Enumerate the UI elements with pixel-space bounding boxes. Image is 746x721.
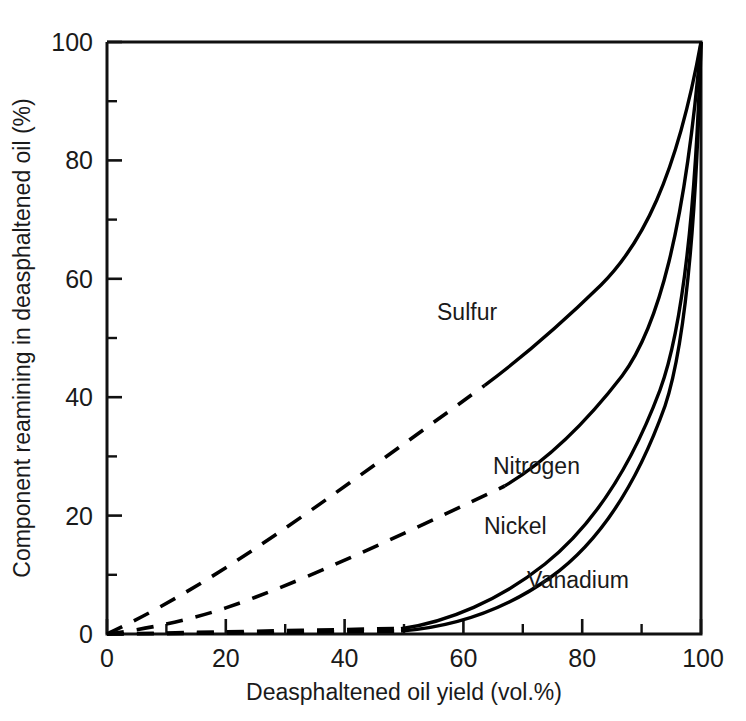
y-axis-title: Component reamining in deasphaltened oil… bbox=[9, 98, 35, 577]
nitrogen-curve-dashed bbox=[107, 486, 505, 634]
x-axis-tick-labels: 0 20 40 60 80 100 bbox=[100, 644, 724, 672]
series-vanadium bbox=[107, 42, 701, 634]
x-tick-label-100: 100 bbox=[682, 644, 724, 672]
x-tick-label-80: 80 bbox=[568, 644, 596, 672]
nickel-curve-solid bbox=[401, 42, 701, 629]
y-tick-label-80: 80 bbox=[65, 146, 93, 174]
x-axis-title: Deasphaltened oil yield (vol.%) bbox=[246, 679, 562, 705]
x-tick-label-0: 0 bbox=[100, 644, 114, 672]
series-sulfur bbox=[107, 42, 701, 634]
y-tick-label-20: 20 bbox=[65, 502, 93, 530]
y-tick-label-100: 100 bbox=[51, 28, 93, 56]
series-label-vanadium: Vanadium bbox=[527, 567, 629, 593]
series-label-nitrogen: Nitrogen bbox=[493, 453, 580, 479]
sulfur-curve-dashed bbox=[107, 385, 485, 634]
chart-page: 0 20 40 60 80 100 0 20 40 60 80 100 Deas… bbox=[0, 0, 746, 721]
y-axis-tick-labels: 0 20 40 60 80 100 bbox=[51, 28, 93, 648]
y-tick-label-0: 0 bbox=[79, 620, 93, 648]
series-label-sulfur: Sulfur bbox=[437, 299, 497, 325]
y-tick-label-60: 60 bbox=[65, 265, 93, 293]
nitrogen-curve-solid bbox=[505, 42, 701, 486]
series-label-nickel: Nickel bbox=[484, 513, 547, 539]
x-tick-label-40: 40 bbox=[331, 644, 359, 672]
sulfur-curve-solid bbox=[485, 42, 701, 385]
x-tick-label-20: 20 bbox=[212, 644, 240, 672]
x-tick-label-60: 60 bbox=[449, 644, 477, 672]
series-nickel bbox=[107, 42, 701, 634]
vanadium-curve-solid bbox=[401, 42, 701, 631]
deasphaltened-oil-yield-chart: 0 20 40 60 80 100 0 20 40 60 80 100 Deas… bbox=[0, 0, 746, 721]
y-axis-ticks bbox=[107, 42, 122, 634]
series-nitrogen bbox=[107, 42, 701, 634]
y-tick-label-40: 40 bbox=[65, 383, 93, 411]
plot-frame bbox=[107, 42, 701, 634]
